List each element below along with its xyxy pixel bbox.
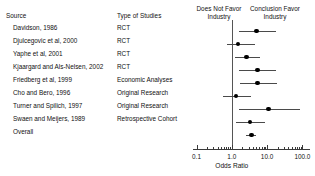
x-axis-minor-tick: [249, 147, 250, 149]
x-axis-major-tick: [267, 145, 268, 149]
x-axis-minor-tick: [284, 147, 285, 149]
x-axis-minor-tick: [278, 147, 279, 149]
plot-area: 0.11.010.0100.0: [0, 0, 315, 176]
odds-ratio-marker: [255, 81, 260, 86]
odds-ratio-marker: [234, 94, 239, 99]
x-axis-minor-tick: [295, 147, 296, 149]
x-axis-major-tick: [197, 145, 198, 149]
x-axis-minor-tick: [292, 147, 293, 149]
x-axis-line: [193, 149, 311, 150]
x-axis-tick-label: 100.0: [287, 153, 315, 160]
x-axis-title: Odds Ratio: [202, 162, 262, 169]
x-axis-minor-tick: [218, 147, 219, 149]
odds-ratio-marker: [248, 120, 253, 125]
odds-ratio-marker: [249, 133, 254, 138]
forest-plot-figure: Source Type of Studies Does Not Favor In…: [0, 0, 315, 176]
confidence-interval-line: [227, 44, 254, 45]
odds-ratio-marker: [266, 107, 271, 112]
x-axis-major-tick: [302, 145, 303, 149]
x-axis-major-tick: [232, 145, 233, 149]
x-axis-tick-label: 0.1: [182, 153, 212, 160]
x-axis-minor-tick: [297, 147, 298, 149]
odds-ratio-marker: [244, 55, 249, 60]
x-axis-minor-tick: [259, 147, 260, 149]
x-axis-minor-tick: [226, 147, 227, 149]
odds-ratio-marker: [236, 42, 241, 47]
x-axis-minor-tick: [256, 147, 257, 149]
odds-ratio-marker: [254, 29, 259, 34]
x-axis-minor-tick: [213, 147, 214, 149]
x-axis-tick-label: 10.0: [252, 153, 282, 160]
x-axis-minor-tick: [242, 147, 243, 149]
x-axis-tick-label: 1.0: [217, 153, 247, 160]
x-axis-minor-tick: [221, 147, 222, 149]
x-axis-minor-tick: [207, 147, 208, 149]
x-axis-minor-tick: [262, 147, 263, 149]
x-axis-minor-tick: [288, 147, 289, 149]
x-axis-minor-tick: [224, 147, 225, 149]
x-axis-minor-tick: [253, 147, 254, 149]
reference-line-or-1: [232, 20, 233, 148]
odds-ratio-marker: [255, 68, 260, 73]
